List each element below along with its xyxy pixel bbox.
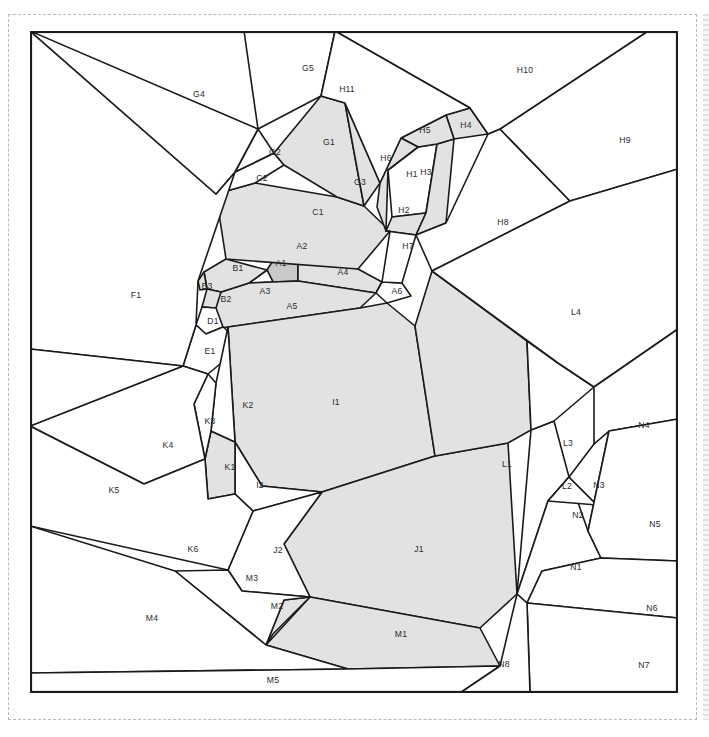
- parcel-label-a2: A2: [297, 241, 308, 251]
- parcel-label-l3: L3: [563, 438, 573, 448]
- parcel-label-a4: A4: [338, 267, 349, 277]
- parcel-label-h3: H3: [420, 167, 431, 177]
- parcel-region-n7[interactable]: [527, 603, 678, 693]
- parcel-label-k3: K3: [205, 416, 216, 426]
- parcel-label-a1: A1: [276, 258, 287, 268]
- parcel-label-g5: G5: [302, 63, 314, 73]
- parcel-label-n7: N7: [638, 660, 649, 670]
- parcel-region-h7[interactable]: [382, 231, 416, 283]
- parcel-label-m5: M5: [267, 675, 279, 685]
- parcel-label-j1: J1: [414, 544, 423, 554]
- parcel-label-g1: G1: [323, 137, 335, 147]
- parcel-label-k6: K6: [188, 544, 199, 554]
- diagram-page: A1A2A3A4A5A6B1B2B3C1C2D1E1F1G1G2G3G4G5H1…: [0, 0, 709, 737]
- parcel-label-d1: D1: [207, 316, 218, 326]
- parcel-label-h10: H10: [517, 65, 533, 75]
- parcel-label-a5: A5: [287, 301, 298, 311]
- parcel-label-g2: G2: [269, 147, 281, 157]
- parcel-label-b2: B2: [221, 294, 232, 304]
- parcel-label-n6: N6: [646, 603, 657, 613]
- parcel-label-h7: H7: [402, 241, 413, 251]
- parcel-label-n5: N5: [649, 519, 660, 529]
- parcel-label-f1: F1: [131, 290, 141, 300]
- parcel-label-g3: G3: [354, 177, 366, 187]
- parcel-label-b1: B1: [233, 263, 244, 273]
- parcel-map-svg: A1A2A3A4A5A6B1B2B3C1C2D1E1F1G1G2G3G4G5H1…: [30, 31, 678, 693]
- parcel-label-k2: K2: [243, 400, 254, 410]
- parcel-label-a6: A6: [392, 286, 403, 296]
- right-scroll-gutter[interactable]: [703, 14, 709, 720]
- parcel-label-h2: H2: [398, 205, 409, 215]
- parcel-label-h6: H6: [380, 153, 391, 163]
- parcel-label-a3: A3: [260, 286, 271, 296]
- parcel-label-e1: E1: [205, 346, 216, 356]
- parcel-label-m2: M2: [271, 601, 283, 611]
- parcel-label-n4: N4: [638, 420, 649, 430]
- parcel-label-h9: H9: [619, 135, 630, 145]
- parcel-label-l4: L4: [571, 307, 581, 317]
- parcel-label-g4: G4: [193, 89, 205, 99]
- parcel-label-n3: N3: [593, 480, 604, 490]
- parcel-label-m3: M3: [246, 573, 258, 583]
- parcel-label-h4: H4: [460, 120, 471, 130]
- parcel-label-i1: I1: [332, 397, 340, 407]
- parcel-label-l2: L2: [562, 481, 572, 491]
- parcel-label-n2: N2: [572, 510, 583, 520]
- parcel-label-k4: K4: [163, 440, 174, 450]
- parcel-label-m1: M1: [395, 629, 407, 639]
- parcel-label-k5: K5: [109, 485, 120, 495]
- parcel-label-h8: H8: [497, 217, 508, 227]
- parcel-label-l1: L1: [502, 459, 512, 469]
- parcel-label-j2: J2: [273, 545, 282, 555]
- parcel-label-n1: N1: [570, 562, 581, 572]
- parcel-label-c1: C1: [312, 207, 323, 217]
- parcel-label-h1: H1: [406, 169, 417, 179]
- parcel-label-k1: K1: [225, 462, 236, 472]
- parcel-label-h11: H11: [339, 84, 355, 94]
- parcel-label-c2: C2: [256, 173, 267, 183]
- page-caption: [0, 0, 709, 11]
- parcel-label-h5: H5: [419, 125, 430, 135]
- parcel-cell-group: [30, 31, 678, 693]
- parcel-map: A1A2A3A4A5A6B1B2B3C1C2D1E1F1G1G2G3G4G5H1…: [30, 31, 678, 693]
- parcel-label-m4: M4: [146, 613, 158, 623]
- parcel-label-n8: N8: [498, 659, 509, 669]
- parcel-label-i2: I2: [256, 480, 264, 490]
- parcel-label-b3: B3: [202, 281, 213, 291]
